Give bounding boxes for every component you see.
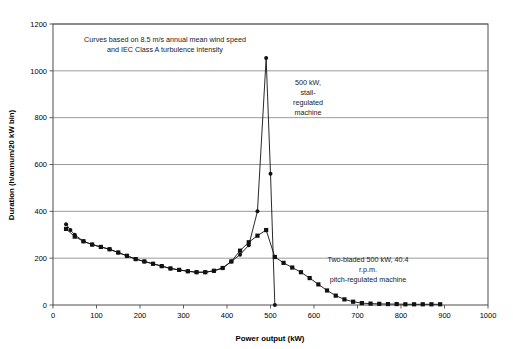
x-tick-label-800: 800 bbox=[395, 311, 408, 320]
data-point bbox=[269, 172, 273, 176]
chart-canvas: 01002003004005006007008009001000 0200400… bbox=[0, 0, 513, 349]
y-tick-label-1200: 1200 bbox=[30, 20, 47, 29]
data-point bbox=[90, 242, 94, 246]
data-point bbox=[281, 261, 285, 265]
data-point bbox=[99, 245, 103, 249]
gridlines bbox=[53, 24, 488, 258]
data-point bbox=[368, 301, 372, 305]
chart-figure: 01002003004005006007008009001000 0200400… bbox=[0, 0, 513, 349]
data-point bbox=[160, 264, 164, 268]
data-point bbox=[421, 302, 425, 306]
x-axis-ticks: 01002003004005006007008009001000 bbox=[51, 305, 496, 320]
x-tick-label-200: 200 bbox=[134, 311, 147, 320]
assumptions-note: Curves based on 8.5 m/s annual mean wind… bbox=[84, 35, 246, 44]
data-point bbox=[238, 253, 242, 257]
x-tick-label-700: 700 bbox=[351, 311, 364, 320]
data-point bbox=[264, 228, 268, 232]
data-point bbox=[290, 265, 294, 269]
data-point bbox=[342, 297, 346, 301]
data-point bbox=[177, 268, 181, 272]
data-point bbox=[81, 239, 85, 243]
data-point bbox=[403, 302, 407, 306]
data-point bbox=[186, 269, 190, 273]
data-point bbox=[386, 302, 390, 306]
x-tick-label-0: 0 bbox=[51, 311, 55, 320]
data-point bbox=[429, 302, 433, 306]
data-point bbox=[438, 302, 442, 306]
data-series bbox=[64, 56, 442, 307]
data-point bbox=[273, 303, 277, 307]
data-point bbox=[134, 257, 138, 261]
data-point bbox=[299, 270, 303, 274]
data-point bbox=[412, 302, 416, 306]
x-tick-label-600: 600 bbox=[308, 311, 321, 320]
data-point bbox=[116, 250, 120, 254]
data-point bbox=[395, 302, 399, 306]
data-point bbox=[168, 266, 172, 270]
x-tick-label-400: 400 bbox=[221, 311, 234, 320]
data-point bbox=[377, 302, 381, 306]
data-point bbox=[229, 259, 233, 263]
data-point bbox=[360, 301, 364, 305]
data-point bbox=[255, 209, 259, 213]
data-point bbox=[64, 227, 68, 231]
y-axis-title: Duration (h/annum/20 kW bin) bbox=[7, 109, 16, 220]
y-tick-label-400: 400 bbox=[34, 207, 47, 216]
x-tick-label-500: 500 bbox=[264, 311, 277, 320]
data-point bbox=[325, 288, 329, 292]
data-point bbox=[73, 235, 77, 239]
data-point bbox=[308, 276, 312, 280]
data-point bbox=[221, 266, 225, 270]
y-tick-label-0: 0 bbox=[43, 301, 47, 310]
data-point bbox=[107, 247, 111, 251]
data-point bbox=[142, 259, 146, 263]
chart-annotations: Curves based on 8.5 m/s annual mean wind… bbox=[84, 35, 408, 284]
y-tick-label-200: 200 bbox=[34, 254, 47, 263]
stall-machine-label: 500 kW, bbox=[295, 78, 321, 87]
data-point bbox=[203, 270, 207, 274]
y-tick-label-1000: 1000 bbox=[30, 67, 47, 76]
data-point bbox=[351, 300, 355, 304]
data-point bbox=[264, 56, 268, 60]
stall-machine-label: machine bbox=[294, 108, 321, 117]
data-point bbox=[125, 254, 129, 258]
series-1 bbox=[64, 227, 442, 307]
x-tick-label-900: 900 bbox=[438, 311, 451, 320]
data-point bbox=[238, 249, 242, 253]
y-tick-label-800: 800 bbox=[34, 113, 47, 122]
pitch-machine-label: r.p.m. bbox=[359, 265, 377, 274]
x-tick-label-1000: 1000 bbox=[480, 311, 497, 320]
data-point bbox=[151, 262, 155, 266]
data-point bbox=[316, 282, 320, 286]
series-line-1 bbox=[66, 229, 440, 304]
x-tick-label-300: 300 bbox=[177, 311, 190, 320]
data-point bbox=[212, 269, 216, 273]
stall-machine-label: stall- bbox=[300, 88, 316, 97]
pitch-machine-label: pitch-regulated machine bbox=[330, 275, 407, 284]
y-tick-label-600: 600 bbox=[34, 160, 47, 169]
data-point bbox=[255, 234, 259, 238]
data-point bbox=[273, 255, 277, 259]
y-axis-ticks: 020040060080010001200 bbox=[30, 20, 53, 310]
x-axis-title: Power output (kW) bbox=[236, 334, 305, 343]
data-point bbox=[194, 270, 198, 274]
stall-machine-label: regulated bbox=[293, 98, 323, 107]
x-tick-label-100: 100 bbox=[90, 311, 103, 320]
data-point bbox=[334, 294, 338, 298]
data-point bbox=[64, 222, 68, 226]
pitch-machine-label: Two-bladed 500 kW, 40.4 bbox=[327, 255, 408, 264]
assumptions-note: and IEC Class A turbulence intensity bbox=[107, 45, 223, 54]
data-point bbox=[247, 240, 251, 244]
